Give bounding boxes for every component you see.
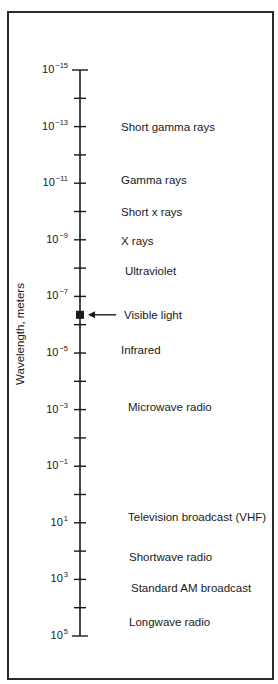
visible-light-marker	[76, 311, 84, 319]
tick-exponent: −3	[59, 401, 68, 410]
tick-exponent: 1	[64, 514, 68, 523]
tick-exponent: −7	[59, 287, 68, 296]
band-label: Microwave radio	[128, 401, 212, 413]
tick-label: 10−11	[43, 176, 68, 188]
tick-label: 10−15	[42, 63, 68, 75]
tick-base: 10	[51, 629, 63, 641]
tick-label: 10−5	[46, 346, 68, 358]
tick-base: 10	[42, 120, 54, 132]
band-label: X rays	[121, 235, 154, 247]
tick-base: 10	[46, 346, 58, 358]
tick-label: 10−3	[46, 403, 68, 415]
tick-label: 10−13	[42, 120, 68, 132]
band-label: Short x rays	[121, 206, 182, 218]
band-label: Longwave radio	[129, 616, 210, 628]
band-label: Infrared	[121, 344, 161, 356]
tick-exponent: −1	[59, 457, 68, 466]
band-label: Visible light	[124, 309, 182, 321]
tick-label: 103	[51, 572, 68, 584]
tick-base: 10	[51, 516, 63, 528]
tick-exponent: −11	[56, 174, 68, 183]
band-label: Short gamma rays	[121, 121, 215, 133]
tick-label: 10−1	[46, 459, 68, 471]
tick-label: 10−7	[46, 289, 68, 301]
tick-label: 105	[51, 629, 68, 641]
tick-base: 10	[46, 459, 58, 471]
tick-exponent: 5	[64, 627, 68, 636]
tick-label: 101	[51, 516, 68, 528]
band-label: Ultraviolet	[125, 265, 176, 277]
tick-base: 10	[42, 63, 54, 75]
band-label: Television broadcast (VHF)	[128, 511, 266, 523]
arrow-head-icon	[88, 311, 95, 318]
band-label: Gamma rays	[121, 174, 187, 186]
tick-exponent: −5	[59, 344, 68, 353]
tick-base: 10	[46, 233, 58, 245]
band-label: Shortwave radio	[129, 551, 212, 563]
tick-label: 10−9	[46, 233, 68, 245]
tick-base: 10	[46, 289, 58, 301]
tick-base: 10	[43, 176, 55, 188]
y-axis-title: Wavelength, meters	[14, 283, 26, 385]
band-label: Standard AM broadcast	[131, 582, 251, 594]
tick-exponent: −9	[59, 231, 68, 240]
tick-exponent: −15	[55, 61, 68, 70]
tick-base: 10	[51, 572, 63, 584]
tick-exponent: 3	[64, 570, 68, 579]
tick-base: 10	[46, 403, 58, 415]
tick-exponent: −13	[55, 118, 68, 127]
